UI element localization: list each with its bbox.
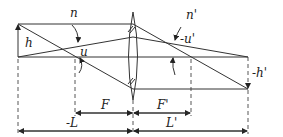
label-u-prime: -u' xyxy=(180,32,195,46)
label-L: -L xyxy=(66,116,78,130)
angle-u-top xyxy=(72,25,78,42)
label-F-prime: F' xyxy=(156,98,169,112)
lens-hatch-lower xyxy=(128,78,135,85)
lens-ray-diagram: n n' h u -u' -h' F F' -L L' xyxy=(0,0,283,137)
label-n-prime: n' xyxy=(186,8,197,22)
ray-axial xyxy=(18,37,248,57)
label-F: F xyxy=(100,98,110,112)
label-u: u xyxy=(80,45,88,59)
angle-right-arc xyxy=(173,58,175,75)
label-h: h xyxy=(25,36,33,50)
angle-u-arc xyxy=(79,58,82,73)
label-h-prime: -h' xyxy=(252,66,267,80)
lens-hatch-upper xyxy=(128,26,135,33)
label-n: n xyxy=(70,6,78,20)
label-L-prime: L' xyxy=(165,116,177,130)
